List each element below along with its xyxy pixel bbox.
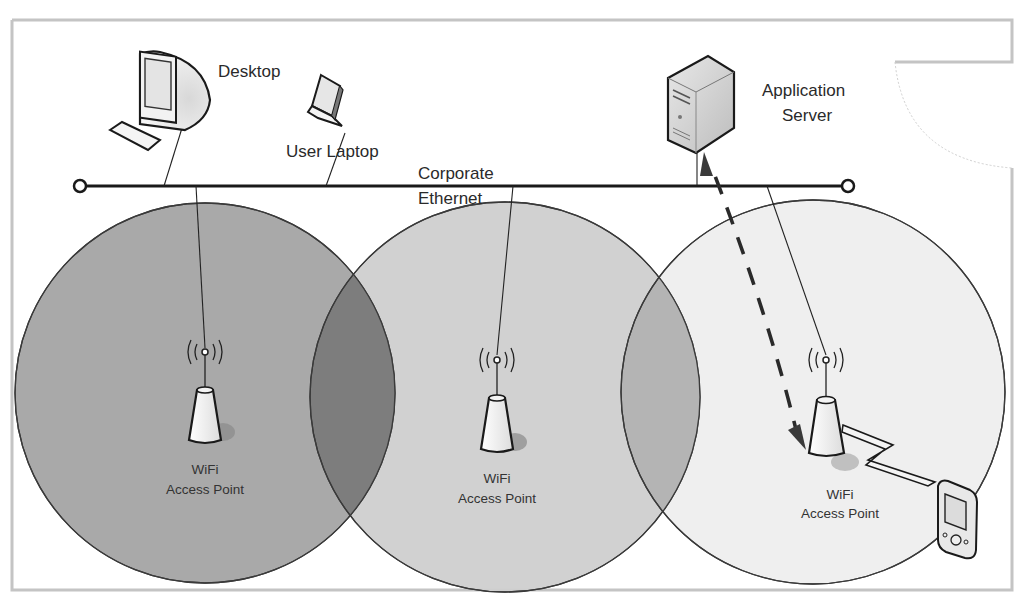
server-tower-icon: Application Server — [668, 56, 845, 153]
ap3-label-line2: Access Point — [801, 506, 879, 521]
ap1-label-line1: WiFi — [192, 462, 219, 477]
laptop-icon: User Laptop — [286, 75, 379, 161]
bus-terminator-right — [842, 180, 854, 192]
bus-terminator-left — [74, 180, 86, 192]
server-label-line1: Application — [762, 81, 845, 100]
corporate-ethernet-bus: Corporate Ethernet — [74, 164, 854, 208]
handheld-pda-icon — [938, 481, 977, 559]
ap3-label-line1: WiFi — [827, 487, 854, 502]
network-diagram: Corporate Ethernet Desktop User Laptop — [0, 0, 1017, 605]
arrowhead-up-icon — [700, 152, 713, 176]
desktop-computer-icon: Desktop — [110, 51, 280, 150]
ethernet-label-line2: Ethernet — [418, 189, 483, 208]
coverage-areas — [15, 200, 1005, 592]
ap2-label-line1: WiFi — [484, 471, 511, 486]
ap1-label-line2: Access Point — [166, 482, 244, 497]
ethernet-label-line1: Corporate — [418, 164, 494, 183]
desktop-label: Desktop — [218, 62, 280, 81]
server-label-line2: Server — [782, 106, 832, 125]
ap2-label-line2: Access Point — [458, 491, 536, 506]
laptop-label: User Laptop — [286, 142, 379, 161]
